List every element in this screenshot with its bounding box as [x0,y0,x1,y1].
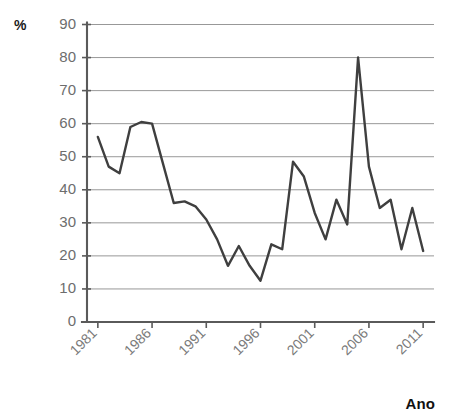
chart-plot-area: 0102030405060708090 19811986199119962001… [0,0,449,420]
y-tick-label: 80 [59,48,76,65]
y-tick-label: 20 [59,246,76,263]
x-tick-label: 2001 [283,325,316,358]
y-tick-label: 50 [59,147,76,164]
x-tick-label: 2006 [338,325,371,358]
x-axis-title: Ano [406,395,435,412]
x-axis-ticks-group: 1981198619911996200120062011 [67,322,426,358]
y-tick-label: 70 [59,81,76,98]
y-tick-label: 30 [59,213,76,230]
y-tick-label: 10 [59,279,76,296]
x-tick-label: 1986 [121,325,154,358]
x-tick-label: 1996 [229,325,262,358]
y-tick-label: 60 [59,114,76,131]
x-tick-label: 1981 [67,325,100,358]
y-tick-label: 40 [59,180,76,197]
x-tick-label: 1991 [175,325,208,358]
y-tick-label: 0 [68,312,76,329]
y-tick-label: 90 [59,15,76,32]
x-tick-label: 2011 [393,325,426,358]
line-chart: % 0102030405060708090 198119861991199620… [0,0,449,420]
